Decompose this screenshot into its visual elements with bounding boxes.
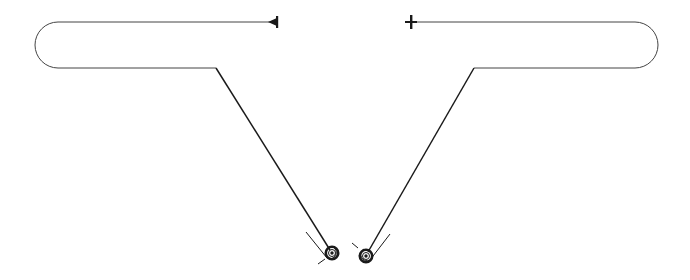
left-assembly	[35, 16, 338, 264]
cross-marker-icon	[405, 15, 417, 29]
right-ring-hub	[364, 254, 367, 257]
arrowhead-icon	[268, 16, 278, 28]
right-diagonal	[368, 68, 474, 252]
figure-canvas	[0, 0, 690, 280]
left-ring-hub	[330, 251, 333, 254]
right-hairpin-loop	[413, 22, 658, 68]
left-terminal-tail	[318, 259, 325, 264]
technical-line-drawing	[0, 0, 690, 280]
left-hairpin-loop	[35, 22, 277, 68]
right-assembly	[352, 15, 658, 262]
right-terminal-tail	[352, 243, 358, 248]
arrowhead-bar	[276, 16, 278, 28]
cross-horizontal-bar	[405, 21, 417, 23]
left-diagonal	[216, 68, 330, 250]
